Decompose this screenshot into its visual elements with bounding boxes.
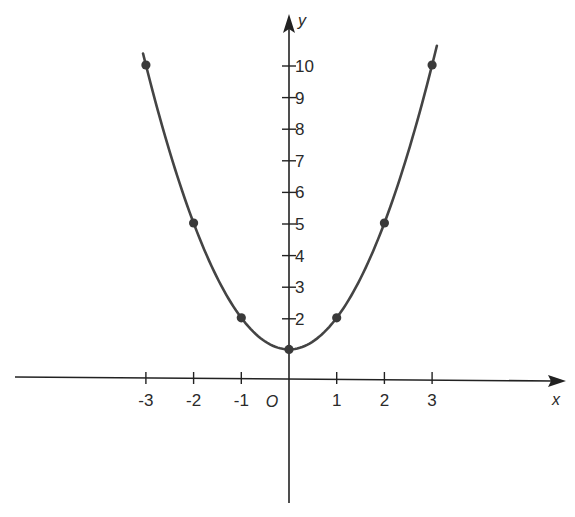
x-tick-label: 1 xyxy=(332,391,341,410)
y-tick-label: 6 xyxy=(295,183,304,202)
x-axis-label: x xyxy=(551,391,561,408)
tick-labels: -3-2-1123O2345678910yx xyxy=(138,12,561,410)
y-tick-label: 10 xyxy=(295,57,314,76)
y-tick-label: 3 xyxy=(295,278,304,297)
axes xyxy=(15,14,566,503)
data-point-marker xyxy=(189,218,198,227)
x-tick-label: -1 xyxy=(234,391,249,410)
x-tick-label: -3 xyxy=(138,391,153,410)
y-tick-label: 4 xyxy=(295,247,304,266)
x-tick-label: 2 xyxy=(380,391,389,410)
x-tick-label: -2 xyxy=(186,391,201,410)
data-point-marker xyxy=(332,313,341,322)
data-point-marker xyxy=(237,313,246,322)
origin-label: O xyxy=(266,393,278,410)
y-axis-label: y xyxy=(297,12,307,29)
x-tick-label: 3 xyxy=(427,391,436,410)
data-point-marker xyxy=(284,345,293,354)
y-tick-label: 9 xyxy=(295,89,304,108)
data-point-marker xyxy=(428,60,437,69)
y-tick-label: 5 xyxy=(295,215,304,234)
data-point-marker xyxy=(380,218,389,227)
curve-path xyxy=(143,46,437,350)
data-point-marker xyxy=(141,60,150,69)
y-tick-label: 7 xyxy=(295,152,304,171)
parabola-chart: -3-2-1123O2345678910yx xyxy=(0,0,575,517)
y-tick-label: 2 xyxy=(295,310,304,329)
parabola-curve xyxy=(143,46,437,350)
y-tick-label: 8 xyxy=(295,120,304,139)
x-axis-line xyxy=(15,377,553,381)
